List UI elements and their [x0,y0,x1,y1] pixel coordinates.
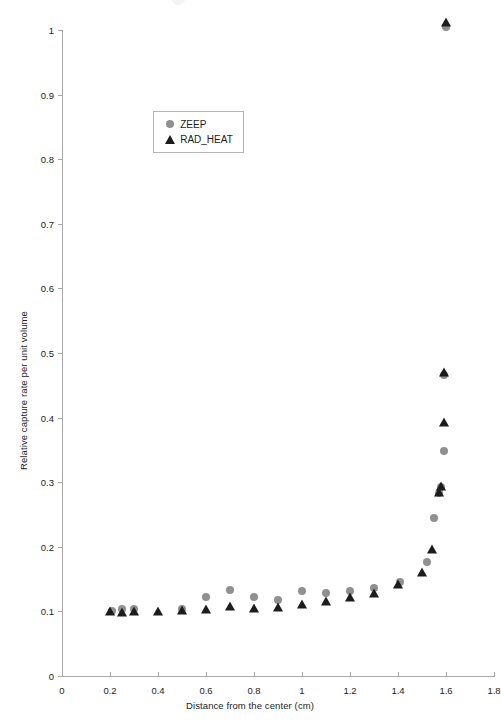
data-point-rad-heat [105,606,115,615]
y-tick-label: 0.6 [22,283,54,294]
legend-label-zeep: ZEEP [180,119,206,130]
x-tick-label: 1.2 [343,685,356,696]
top-edge-artifact [172,0,185,5]
data-point-zeep [298,587,306,595]
data-point-zeep [226,586,234,594]
y-tick-mark [58,353,63,354]
data-point-zeep [423,558,431,566]
legend-triangle-icon [162,135,178,144]
x-tick-label: 1 [299,685,304,696]
legend-label-rad-heat: RAD_HEAT [180,134,233,145]
x-tick-label: 0.8 [247,685,260,696]
data-point-rad-heat [177,606,187,615]
y-tick-label: 0.2 [22,541,54,552]
data-point-rad-heat [427,544,437,553]
data-point-rad-heat [273,602,283,611]
y-tick-label: 0.9 [22,89,54,100]
x-tick-label: 1.4 [391,685,404,696]
x-tick-mark [398,672,399,677]
x-tick-mark [494,672,495,677]
data-point-rad-heat [417,567,427,576]
data-point-rad-heat [321,597,331,606]
x-tick-mark [254,672,255,677]
y-tick-mark [58,547,63,548]
y-tick-mark [58,288,63,289]
chart-legend: ZEEP RAD_HEAT [153,111,244,153]
x-tick-label: 1.6 [439,685,452,696]
x-tick-label: 1.8 [487,685,500,696]
y-tick-label: 0.1 [22,606,54,617]
y-tick-mark [58,418,63,419]
x-tick-mark [206,672,207,677]
y-tick-label: 1 [22,25,54,36]
x-tick-mark [302,672,303,677]
x-tick-mark [350,672,351,677]
y-tick-mark [58,30,63,31]
y-tick-label: 0.3 [22,477,54,488]
y-tick-mark [58,159,63,160]
data-point-rad-heat [153,606,163,615]
x-tick-label: 0.4 [151,685,164,696]
data-point-rad-heat [439,418,449,427]
x-tick-label: 0 [59,685,64,696]
data-point-rad-heat [345,592,355,601]
y-axis-title: Relative capture rate per unit volume [18,311,29,470]
y-tick-mark [58,224,63,225]
data-point-zeep [430,514,438,522]
legend-entry-rad-heat: RAD_HEAT [162,132,233,147]
legend-entry-zeep: ZEEP [162,117,233,132]
data-point-zeep [440,447,448,455]
x-tick-mark [62,672,63,677]
y-tick-mark [58,482,63,483]
data-point-rad-heat [297,599,307,608]
y-tick-label: 0.8 [22,154,54,165]
data-point-rad-heat [393,580,403,589]
y-tick-label: 0.7 [22,218,54,229]
x-axis-title: Distance from the center (cm) [0,700,500,711]
data-point-rad-heat [117,608,127,617]
x-tick-label: 0.6 [199,685,212,696]
legend-circle-icon [162,120,178,128]
x-tick-mark [158,672,159,677]
data-point-rad-heat [201,604,211,613]
y-tick-mark [58,611,63,612]
y-tick-mark [58,95,63,96]
data-point-rad-heat [129,607,139,616]
data-point-rad-heat [441,18,451,27]
data-point-rad-heat [249,603,259,612]
x-tick-mark [446,672,447,677]
data-point-rad-heat [225,602,235,611]
data-point-zeep [202,593,210,601]
x-tick-label: 0.2 [103,685,116,696]
y-tick-label: 0 [22,671,54,682]
x-tick-mark [110,672,111,677]
data-point-zeep [250,593,258,601]
y-tick-label: 0.5 [22,348,54,359]
data-point-rad-heat [439,368,449,377]
data-point-rad-heat [436,482,446,491]
y-tick-label: 0.4 [22,412,54,423]
data-point-rad-heat [369,589,379,598]
x-axis-line [62,676,495,677]
